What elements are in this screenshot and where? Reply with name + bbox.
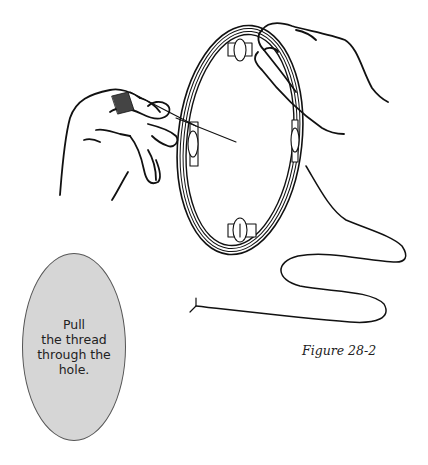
right-hand — [255, 23, 388, 134]
instruction-callout: Pull the thread through the hole. — [22, 253, 126, 441]
instruction-text: Pull the thread through the hole. — [29, 317, 119, 377]
instruction-line-2: the thread — [29, 332, 119, 347]
hoop-tab-top — [228, 39, 252, 61]
thread-end — [190, 298, 196, 312]
instruction-line-1: Pull — [29, 317, 119, 332]
instruction-line-4: hole. — [29, 362, 119, 377]
hand-shading — [112, 92, 134, 114]
instruction-line-3: through the — [29, 347, 119, 362]
hoop-tab-left — [188, 122, 198, 166]
hoop-tab-right — [291, 120, 299, 162]
figure-label: Figure 28-2 — [302, 343, 376, 358]
trailing-thread — [196, 166, 406, 322]
